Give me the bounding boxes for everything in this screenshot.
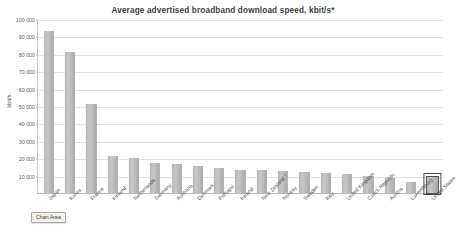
bar-slot[interactable] — [379, 19, 400, 193]
y-axis-tick-label: 60 000 — [1, 87, 35, 93]
bar[interactable] — [129, 158, 139, 193]
bar[interactable] — [44, 31, 54, 193]
chart-title: Average advertised broadband download sp… — [0, 6, 446, 15]
bar-slot[interactable] — [230, 19, 251, 193]
bar[interactable] — [214, 168, 224, 193]
y-axis-tick-label: 50 000 — [1, 104, 35, 110]
bar-slot[interactable] — [209, 19, 230, 193]
y-axis-tick-label: 30 000 — [1, 139, 35, 145]
bar-slot[interactable] — [59, 19, 80, 193]
bars-series[interactable] — [38, 19, 443, 193]
y-axis-tick-label: 40 000 — [1, 121, 35, 127]
y-axis-tick-label: 90 000 — [1, 34, 35, 40]
bar[interactable] — [107, 156, 117, 193]
bar-slot[interactable] — [123, 19, 144, 193]
y-axis-tick-label: 100 000 — [1, 17, 35, 23]
bar-slot[interactable] — [251, 19, 272, 193]
bar-slot[interactable] — [315, 19, 336, 193]
bar-slot[interactable] — [145, 19, 166, 193]
bar[interactable] — [257, 170, 267, 193]
bar-slot[interactable] — [358, 19, 379, 193]
bar[interactable] — [65, 52, 75, 193]
plot-area[interactable]: 100 00090 00080 00070 00060 00050 00040 … — [37, 20, 442, 194]
bar[interactable] — [235, 170, 245, 193]
bar-slot[interactable] — [336, 19, 357, 193]
bar-slot[interactable] — [38, 19, 59, 193]
chart-area-tooltip: Chart Area — [31, 212, 66, 223]
bar[interactable] — [193, 166, 203, 193]
bar-slot[interactable] — [166, 19, 187, 193]
bar-slot[interactable] — [294, 19, 315, 193]
bar-slot[interactable] — [272, 19, 293, 193]
y-axis-tick-label: 70 000 — [1, 69, 35, 75]
bar[interactable] — [86, 104, 96, 193]
y-axis-tick-label: 20 000 — [1, 156, 35, 162]
bar[interactable] — [171, 164, 181, 193]
bar-slot[interactable] — [400, 19, 421, 193]
y-axis-tick-label: 10 000 — [1, 174, 35, 180]
bar-slot[interactable] — [422, 19, 443, 193]
bar-slot[interactable] — [81, 19, 102, 193]
y-axis-tick-label: 80 000 — [1, 52, 35, 58]
bar-slot[interactable] — [102, 19, 123, 193]
bar-slot[interactable] — [187, 19, 208, 193]
